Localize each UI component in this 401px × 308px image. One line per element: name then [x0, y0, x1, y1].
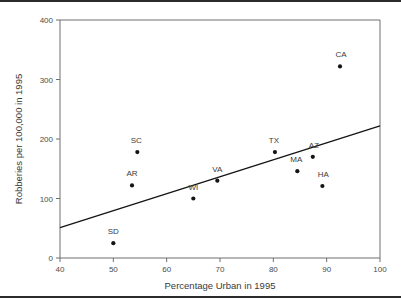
axes-group — [60, 20, 380, 258]
data-point-label-tx: TX — [269, 136, 280, 145]
data-point-wi — [191, 196, 195, 200]
data-point-ca — [338, 64, 342, 68]
data-point-label-ca: CA — [335, 50, 347, 59]
data-point-label-wi: WI — [188, 183, 198, 192]
x-tick-label: 100 — [373, 265, 387, 274]
x-tick-label: 40 — [56, 265, 65, 274]
regression-line-segment — [60, 126, 380, 228]
data-point-label-ar: AR — [126, 169, 137, 178]
y-tick-label: 400 — [40, 16, 54, 25]
regression-line — [60, 126, 380, 228]
data-point-az — [311, 155, 315, 159]
x-tick-label: 70 — [216, 265, 225, 274]
data-point-ar — [130, 183, 134, 187]
data-point-label-ha: HA — [318, 170, 330, 179]
data-point-ma — [295, 169, 299, 173]
y-tick-label: 300 — [40, 76, 54, 85]
data-point-va — [215, 179, 219, 183]
data-point-label-az: AZ — [309, 141, 319, 150]
data-point-sd — [111, 241, 115, 245]
data-point-label-sc: SC — [131, 136, 142, 145]
chart-figure: 0100200300400405060708090100 SDARSCWIVAT… — [0, 0, 401, 308]
data-point-label-va: VA — [212, 165, 223, 174]
data-point-label-sd: SD — [108, 227, 119, 236]
x-axis-title: Percentage Urban in 1995 — [165, 280, 276, 291]
data-point-tx — [273, 150, 277, 154]
y-tick-label: 200 — [40, 135, 54, 144]
data-point-label-ma: MA — [290, 155, 303, 164]
x-tick-label: 80 — [269, 265, 278, 274]
scatter-plot: 0100200300400405060708090100 SDARSCWIVAT… — [0, 0, 401, 308]
y-tick-label: 100 — [40, 195, 54, 204]
y-axis-title: Robberies per 100,000 in 1995 — [13, 74, 24, 204]
y-tick-label: 0 — [49, 254, 54, 263]
data-point-ha — [320, 184, 324, 188]
axis-spines — [60, 20, 380, 258]
x-tick-label: 60 — [162, 265, 171, 274]
data-point-sc — [135, 150, 139, 154]
x-tick-label: 50 — [109, 265, 118, 274]
data-points-group: SDARSCWIVATXMAAZHACA — [108, 50, 347, 245]
x-tick-label: 90 — [322, 265, 331, 274]
